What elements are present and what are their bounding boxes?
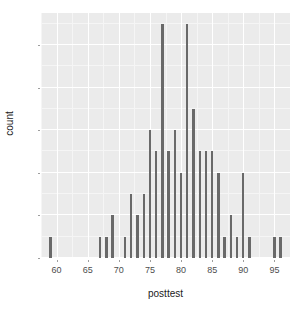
x-axis-title: posttest [41,288,290,299]
x-axis: 6065707580859095 [0,0,305,312]
x-tick-label: 75 [145,266,155,275]
x-tick-label: 65 [83,266,93,275]
x-tick-mark [88,260,89,262]
x-tick-mark [274,260,275,262]
x-tick-label: 70 [114,266,124,275]
x-tick-label: 80 [176,266,186,275]
x-tick-label: 60 [52,266,62,275]
histogram-chart: 0246810 6065707580859095 count posttest [0,0,305,312]
x-tick-label: 95 [269,266,279,275]
x-tick-label: 85 [207,266,217,275]
x-tick-mark [243,260,244,262]
x-tick-mark [181,260,182,262]
x-tick-mark [57,260,58,262]
x-tick-label: 90 [238,266,248,275]
x-tick-mark [150,260,151,262]
x-tick-mark [119,260,120,262]
x-tick-mark [212,260,213,262]
y-axis-title: count [4,94,15,154]
